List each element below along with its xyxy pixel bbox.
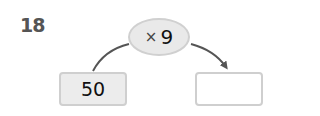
- operand: 9: [160, 25, 173, 49]
- multiply-sign: ×: [145, 28, 158, 46]
- output-arrow: [191, 44, 226, 67]
- input-connector-line: [93, 44, 129, 71]
- answer-box[interactable]: [195, 72, 263, 106]
- operation-oval: × 9: [128, 18, 190, 56]
- input-box: 50: [59, 72, 127, 106]
